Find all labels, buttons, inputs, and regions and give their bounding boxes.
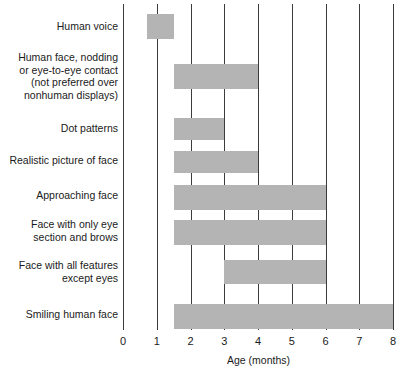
bar <box>147 14 174 39</box>
bar-chart: Human voice Human face, nodding or eye-t… <box>0 0 411 377</box>
x-tick-label-2: 2 <box>179 334 203 348</box>
gridline-8 <box>393 4 394 330</box>
bar <box>174 64 258 89</box>
category-label-face-all-features-no-eyes: Face with all features except eyes <box>0 259 118 284</box>
gridline-7 <box>359 4 360 330</box>
bar <box>224 260 325 284</box>
x-tick-label-7: 7 <box>347 334 371 348</box>
category-label-smiling-human-face: Smiling human face <box>0 308 118 321</box>
x-axis-line <box>123 330 394 331</box>
x-tick-label-5: 5 <box>280 334 304 348</box>
x-tick-label-1: 1 <box>145 334 169 348</box>
bar <box>174 151 258 173</box>
bar <box>174 185 326 210</box>
x-tick-label-3: 3 <box>212 334 236 348</box>
x-axis-title: Age (months) <box>123 354 394 366</box>
bar <box>174 118 225 140</box>
category-label-human-face-nodding: Human face, nodding or eye-to-eye contac… <box>0 51 118 101</box>
x-tick-label-0: 0 <box>111 334 135 348</box>
category-label-human-voice: Human voice <box>0 20 118 33</box>
plot-area <box>123 4 393 330</box>
bar <box>174 220 326 245</box>
x-tick-label-8: 8 <box>381 334 405 348</box>
bar <box>174 304 393 329</box>
x-tick-label-6: 6 <box>314 334 338 348</box>
gridline-0 <box>123 4 124 330</box>
x-tick-label-4: 4 <box>246 334 270 348</box>
category-label-face-eye-section-brows: Face with only eye section and brows <box>0 218 118 243</box>
gridline-6 <box>326 4 327 330</box>
category-label-column: Human voice Human face, nodding or eye-t… <box>0 0 118 330</box>
category-label-dot-patterns: Dot patterns <box>0 122 118 135</box>
category-label-realistic-picture-of-face: Realistic picture of face <box>0 154 118 167</box>
category-label-approaching-face: Approaching face <box>0 189 118 202</box>
gridline-1 <box>157 4 158 330</box>
